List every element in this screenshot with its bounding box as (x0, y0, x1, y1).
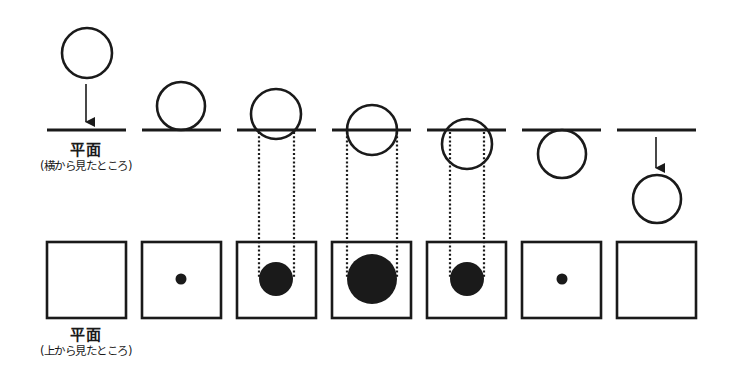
top-panel-2 (142, 242, 221, 318)
panel-7 (617, 130, 696, 223)
cross-section-disc (347, 254, 397, 304)
side-view-label-main: 平面 (28, 141, 144, 159)
sphere-circle (62, 28, 112, 78)
panel-2 (142, 82, 221, 130)
sphere-circle (633, 175, 681, 223)
cross-section-disc (176, 274, 187, 285)
top-panel-5 (427, 132, 506, 318)
panel-4 (332, 105, 411, 155)
cross-section-disc (450, 262, 484, 296)
top-view-label-main: 平面 (28, 326, 144, 344)
cross-section-disc (259, 262, 293, 296)
panel-3 (237, 89, 316, 139)
top-view-row (47, 132, 696, 318)
plane-square (617, 242, 696, 318)
sphere-circle (538, 130, 586, 178)
top-view-label-sub: (上から見たところ) (28, 344, 144, 359)
plane-square (47, 242, 126, 318)
side-view-row (47, 28, 696, 223)
side-view-label: 平面 (横から見たところ) (28, 141, 144, 174)
top-view-label: 平面 (上から見たところ) (28, 326, 144, 359)
panel-5 (427, 119, 506, 169)
top-panel-1 (47, 242, 126, 318)
top-panel-7 (617, 242, 696, 318)
panel-6 (522, 130, 601, 178)
top-panel-3 (237, 132, 316, 318)
top-panel-4 (332, 132, 411, 318)
cross-section-disc (557, 274, 568, 285)
side-view-label-sub: (横から見たところ) (28, 159, 144, 174)
sphere-plane-cross-section-diagram (0, 0, 738, 368)
top-panel-6 (522, 242, 601, 318)
panel-1 (47, 28, 126, 130)
sphere-circle (157, 82, 205, 130)
